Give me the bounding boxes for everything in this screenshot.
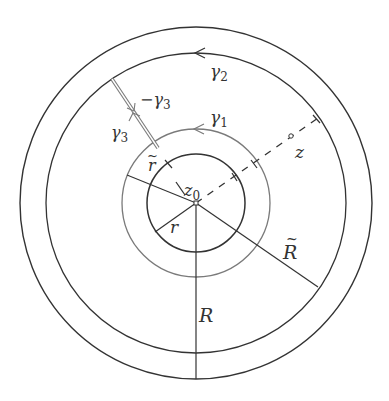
label-r: r	[170, 217, 179, 237]
label-minus-gamma3: −γ3	[140, 90, 171, 112]
tilde-R: ~	[286, 231, 298, 247]
label-z0: z0	[183, 181, 200, 203]
tilde-r: ~	[147, 148, 158, 163]
label-gamma3: γ3	[111, 123, 128, 145]
annulus-contour-diagram: γ2 γ1 −γ3 γ3 z0 z r r ~ R R ~	[0, 0, 389, 401]
label-gamma2: γ2	[210, 61, 228, 84]
label-gamma1: γ1	[210, 107, 228, 130]
label-z: z	[294, 142, 305, 162]
label-R: R	[198, 304, 213, 326]
diagram-canvas: γ2 γ1 −γ3 γ3 z0 z r r ~ R R ~	[0, 0, 389, 401]
point-z	[289, 134, 293, 138]
